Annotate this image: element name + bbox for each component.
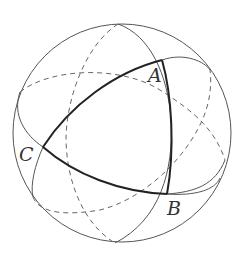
vertex-label-b: B [166, 197, 181, 219]
vertex-label-c: C [19, 143, 34, 165]
great-circle-ab-back [66, 24, 118, 243]
great-circle-ab-front [115, 24, 171, 243]
great-circle-ca-front [18, 57, 210, 147]
vertex-label-a: A [146, 64, 162, 86]
great-circle-ca-lower [167, 160, 225, 194]
great-circle-ca-back [20, 73, 225, 160]
triangle-side-bc [43, 147, 167, 194]
triangle-side-ca [43, 60, 162, 147]
sphere-diagram: A B C [0, 0, 245, 253]
